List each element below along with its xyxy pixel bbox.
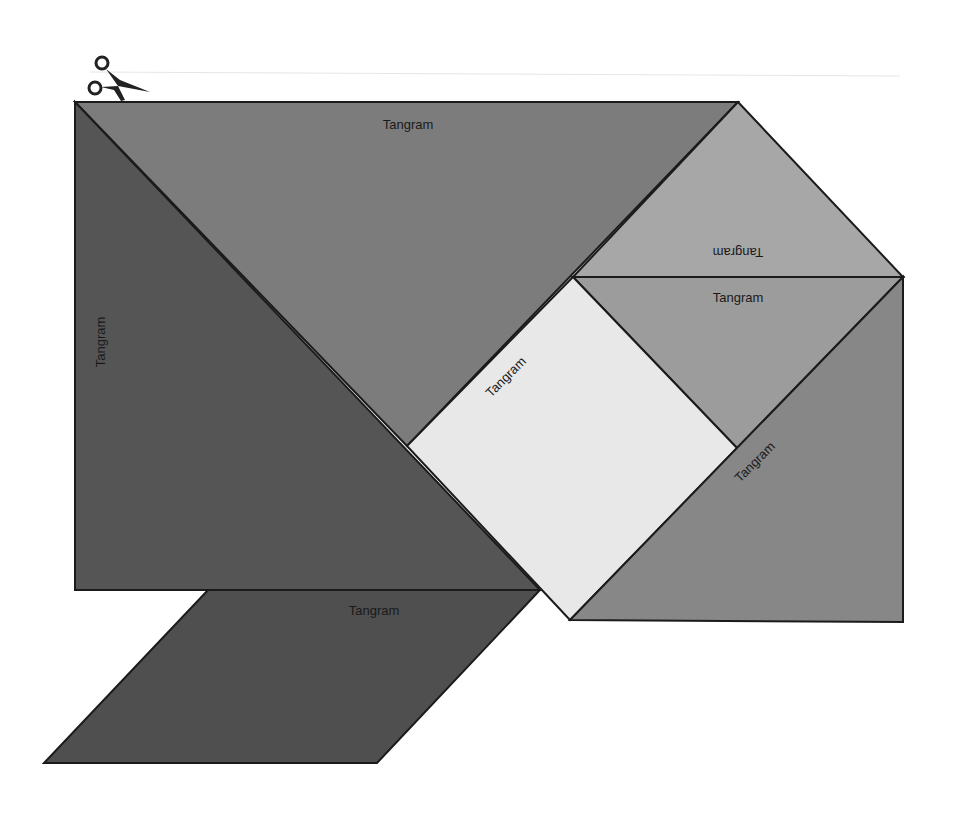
tangram-sheet: Tangram Tangram Tangram Tangram Tangram … xyxy=(0,0,956,815)
label-medium-triangle-right: Tangram xyxy=(713,290,764,305)
scissors-icon xyxy=(89,57,150,101)
label-small-triangle-top-right: Tangram xyxy=(713,245,764,260)
cut-guide-line xyxy=(90,72,900,76)
label-large-triangle-top: Tangram xyxy=(383,117,434,132)
label-large-triangle-left: Tangram xyxy=(93,317,108,368)
label-parallelogram: Tangram xyxy=(349,603,400,618)
piece-parallelogram[interactable] xyxy=(44,590,540,763)
